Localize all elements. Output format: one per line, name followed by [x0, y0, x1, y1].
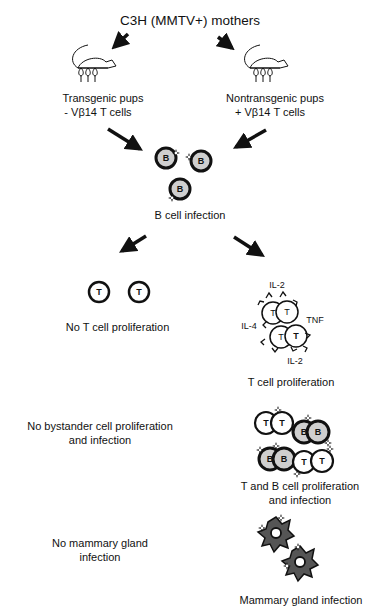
nontransgenic-pups-sublabel: + Vβ14 T cells: [215, 106, 325, 119]
t-cell-label-1: T: [94, 287, 104, 297]
arrow-down-left: [122, 236, 146, 251]
tb-cluster-label-b1: B: [299, 427, 309, 437]
t-cell-label-2: T: [134, 287, 144, 297]
tb-cluster-label-t3: T: [299, 457, 309, 467]
tb-cluster-label-b4: B: [279, 454, 289, 464]
mouse-icon-left: [73, 45, 116, 82]
b-cell-label-2: B: [196, 156, 206, 166]
arrow-to-transgenic-pups: [114, 34, 128, 47]
tb-cluster-label-b3: B: [265, 454, 275, 464]
no-t-cell-proliferation-label: No T cell proliferation: [50, 321, 185, 334]
arrow-down-right: [234, 237, 262, 255]
mammary-gland-cell-2: [282, 543, 318, 581]
cytokine-il4: IL-4: [238, 321, 260, 331]
t-cell-proliferation-label: T cell proliferation: [236, 376, 346, 389]
mammary-gland-infection-label: Mammary gland infection: [226, 594, 376, 607]
transgenic-pups-label: Transgenic pups: [48, 92, 158, 105]
no-bystander-label-line1: No bystander cell proliferation: [10, 420, 190, 433]
mammary-gland-cell-1: [258, 514, 294, 552]
tb-proliferation-label-line2: and infection: [225, 494, 375, 507]
t-cell-cluster-label-3: T: [276, 332, 286, 342]
no-bystander-label-line2: and infection: [10, 434, 190, 447]
b-cell-label-1: B: [161, 153, 171, 163]
t-cell-cluster-label-2: T: [282, 307, 292, 317]
nontransgenic-pups-label: Nontransgenic pups: [215, 92, 335, 105]
cytokine-il2-top: IL-2: [265, 280, 289, 290]
diagram-title: C3H (MMTV+) mothers: [100, 13, 280, 29]
no-mammary-infection-line1: No mammary gland: [40, 537, 160, 550]
tb-proliferation-label-line1: T and B cell proliferation: [225, 480, 375, 493]
arrow-right-to-b-cells: [236, 130, 266, 147]
tb-cluster-label-t2: T: [277, 418, 287, 428]
cytokine-il2-bottom: IL-2: [283, 356, 307, 366]
tb-cluster-label-b2: B: [313, 427, 323, 437]
no-mammary-infection-line2: infection: [40, 551, 160, 564]
arrow-to-nontransgenic-pups: [218, 37, 232, 48]
mouse-icon-right: [245, 45, 288, 82]
b-cell-label-3: B: [175, 184, 185, 194]
tb-cluster-label-t1: T: [261, 418, 271, 428]
b-cell-infection-label: B cell infection: [130, 209, 250, 222]
transgenic-pups-sublabel: - Vβ14 T cells: [48, 106, 148, 119]
t-cell-cluster-label-4: T: [291, 331, 301, 341]
t-cell-cluster-label-1: T: [268, 308, 278, 318]
cytokine-tnf: TNF: [303, 315, 327, 325]
tb-cluster-label-t4: T: [317, 456, 327, 466]
arrow-left-to-b-cells: [108, 129, 140, 149]
